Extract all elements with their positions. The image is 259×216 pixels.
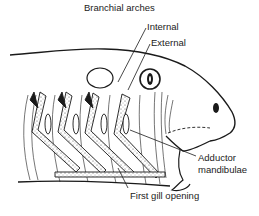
branchial-arches-diagram: Branchial arches Internal External Adduc… — [0, 0, 259, 216]
branchial-arches — [30, 92, 165, 178]
nostril-icon — [213, 103, 219, 113]
head-illustration — [0, 0, 259, 216]
leader-lines — [118, 28, 196, 188]
lower-jaw — [166, 136, 210, 151]
arch-1 — [32, 92, 80, 172]
jaw-outline — [168, 127, 210, 133]
otic-capsule — [87, 68, 113, 88]
